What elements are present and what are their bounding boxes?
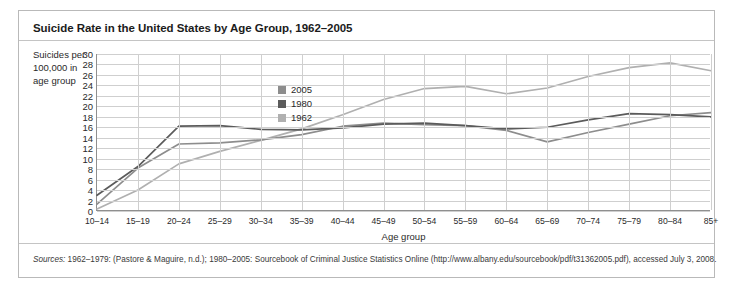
gridline-horizontal <box>97 75 710 76</box>
chart-legend: 200519801962 <box>278 84 312 123</box>
gridline-vertical <box>588 54 589 210</box>
x-axis-tick-label: 80–84 <box>658 216 682 226</box>
gridline-horizontal <box>97 148 710 149</box>
gridline-vertical <box>424 54 425 210</box>
figure-container: Suicide Rate in the United States by Age… <box>0 0 733 290</box>
x-axis-title: Age group <box>382 231 426 242</box>
gridline-vertical <box>179 54 180 210</box>
sources-note: Sources: 1962–1979: (Pastore & Maguire, … <box>33 254 707 265</box>
gridline-horizontal <box>97 117 710 118</box>
gridline-horizontal <box>97 64 710 65</box>
gridline-vertical <box>220 54 221 210</box>
gridline-horizontal <box>97 169 710 170</box>
gridline-vertical <box>506 54 507 210</box>
sources-text: 1962–1979: (Pastore & Maguire, n.d.); 19… <box>65 255 716 264</box>
legend-item-1962[interactable]: 1962 <box>278 112 312 123</box>
gridline-horizontal <box>97 190 710 191</box>
gridline-horizontal <box>97 106 710 107</box>
gridline-vertical <box>629 54 630 210</box>
gridline-horizontal <box>97 201 710 202</box>
x-axis-tick-label: 15–19 <box>126 216 150 226</box>
x-axis-tick-label: 35–39 <box>290 216 314 226</box>
x-axis-tick-label: 65–69 <box>535 216 559 226</box>
y-axis-tick-label: 18 <box>82 111 93 122</box>
y-axis-tick-label: 30 <box>82 49 93 60</box>
y-axis-tick-label: 0 <box>88 206 93 217</box>
x-axis-tick-label: 60–64 <box>494 216 518 226</box>
gridline-horizontal <box>97 85 710 86</box>
y-axis-tick-label: 10 <box>82 153 93 164</box>
sources-label: Sources: <box>33 255 65 264</box>
x-axis-tick-label: 45–49 <box>372 216 396 226</box>
y-axis-tick-label: 16 <box>82 122 93 133</box>
y-axis-tick-label: 24 <box>82 80 93 91</box>
gridline-vertical <box>711 54 712 210</box>
x-axis-tick-label: 50–54 <box>413 216 437 226</box>
y-axis-tick-label: 4 <box>88 185 93 196</box>
y-axis-tick-label: 6 <box>88 174 93 185</box>
gridline-vertical <box>302 54 303 210</box>
y-axis-tick-label: 26 <box>82 69 93 80</box>
legend-label: 2005 <box>291 85 312 95</box>
legend-swatch-icon <box>278 100 286 108</box>
title-divider <box>19 40 714 41</box>
gridline-horizontal <box>97 159 710 160</box>
y-axis-tick-label: 14 <box>82 132 93 143</box>
gridline-horizontal <box>97 180 710 181</box>
y-axis-tick-label: 28 <box>82 59 93 70</box>
y-axis-tick-label: 8 <box>88 164 93 175</box>
legend-label: 1980 <box>291 99 312 109</box>
legend-swatch-icon <box>278 86 286 94</box>
gridline-vertical <box>138 54 139 210</box>
gridline-horizontal <box>97 96 710 97</box>
x-axis-tick-label: 85+ <box>704 216 719 226</box>
x-axis-tick-label: 10–14 <box>85 216 109 226</box>
legend-label: 1962 <box>291 113 312 123</box>
gridline-horizontal <box>97 211 710 212</box>
y-axis-tick-label: 20 <box>82 101 93 112</box>
legend-item-1980[interactable]: 1980 <box>278 98 312 109</box>
y-axis-tick-label: 2 <box>88 195 93 206</box>
gridline-vertical <box>343 54 344 210</box>
x-axis-tick-label: 20–24 <box>167 216 191 226</box>
legend-item-2005[interactable]: 2005 <box>278 84 312 95</box>
x-axis-tick-label: 70–74 <box>576 216 600 226</box>
x-axis-tick-label: 25–29 <box>208 216 232 226</box>
y-axis-tick-label: 12 <box>82 143 93 154</box>
y-axis-tick-label: 22 <box>82 90 93 101</box>
plot-area: Age group 30282624222018161412108642010–… <box>96 54 710 211</box>
gridline-horizontal <box>97 138 710 139</box>
gridline-vertical <box>465 54 466 210</box>
series-layer <box>97 54 711 211</box>
gridline-vertical <box>261 54 262 210</box>
x-axis-tick-label: 55–59 <box>453 216 477 226</box>
gridline-vertical <box>670 54 671 210</box>
gridline-horizontal <box>97 127 710 128</box>
chart-title: Suicide Rate in the United States by Age… <box>33 22 352 34</box>
gridline-horizontal <box>97 54 710 55</box>
gridline-vertical <box>547 54 548 210</box>
legend-swatch-icon <box>278 114 286 122</box>
x-axis-tick-label: 40–44 <box>331 216 355 226</box>
x-axis-tick-label: 30–34 <box>249 216 273 226</box>
x-axis-tick-label: 75–79 <box>617 216 641 226</box>
gridline-vertical <box>384 54 385 210</box>
sources-divider <box>19 243 714 244</box>
